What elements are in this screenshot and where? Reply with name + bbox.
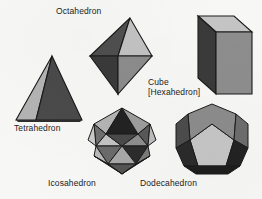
solid-octahedron — [88, 16, 154, 96]
label-tetrahedron: Tetrahedron — [14, 123, 60, 133]
label-tetrahedron-text: Tetrahedron — [14, 123, 60, 133]
octahedron-face-lower-left — [90, 56, 118, 94]
cube-face-front — [216, 32, 252, 94]
label-octahedron: Octahedron — [56, 6, 101, 16]
label-dodecahedron-text: Dodecahedron — [140, 178, 197, 188]
solid-dodecahedron — [172, 100, 252, 178]
label-dodecahedron: Dodecahedron — [140, 178, 197, 188]
label-cube: Cube [Hexahedron] — [148, 78, 200, 97]
solid-icosahedron — [84, 106, 160, 178]
dodecahedron-face-bottom — [184, 166, 240, 174]
icosahedron-face-ul2 — [88, 124, 96, 146]
icosahedron-face-ur2 — [148, 124, 156, 146]
tetrahedron-face-base — [16, 120, 82, 122]
solid-tetrahedron — [12, 54, 86, 124]
octahedron-face-lower-right — [118, 56, 152, 94]
label-cube-alt-text: [Hexahedron] — [148, 88, 200, 98]
icosahedron-face-b3 — [108, 164, 136, 174]
label-icosahedron-text: Icosahedron — [48, 178, 96, 188]
label-octahedron-text: Octahedron — [56, 6, 101, 16]
platonic-solids-figure: Tetrahedron Octahedron Cube [Hexahedro — [0, 0, 262, 199]
label-icosahedron: Icosahedron — [48, 178, 96, 188]
